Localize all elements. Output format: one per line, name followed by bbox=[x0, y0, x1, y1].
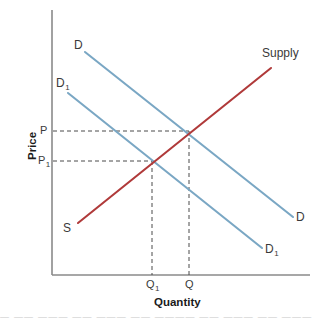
supply-curve bbox=[78, 68, 271, 223]
quantity-tick-q: Q bbox=[185, 279, 194, 290]
demand-shift-end-base: D bbox=[265, 242, 274, 256]
quantity-tick-q1: Q1 bbox=[146, 279, 159, 290]
demand-shift-end-subscript: 1 bbox=[274, 249, 278, 258]
demand-shift-top-subscript: 1 bbox=[65, 83, 69, 92]
x-axis-title: Quantity bbox=[154, 297, 201, 309]
supply-demand-figure: D D1 D D1 S Supply P P1 Q1 Q Price Quant… bbox=[0, 0, 326, 320]
demand-shift-top-base: D bbox=[56, 76, 65, 90]
guide-lines-group bbox=[53, 131, 189, 275]
price-tick-p: P bbox=[40, 125, 47, 136]
demand-shift-curve-end-label: D1 bbox=[265, 243, 278, 255]
quantity-q1-subscript: 1 bbox=[155, 284, 159, 293]
supply-curve-end-label: Supply bbox=[262, 47, 299, 59]
y-axis-title: Price bbox=[27, 132, 39, 160]
demand-shift-curve-top-label: D1 bbox=[56, 77, 69, 89]
supply-curve-start-label: S bbox=[63, 222, 71, 234]
price-tick-p1: P1 bbox=[38, 155, 50, 166]
price-p1-subscript: 1 bbox=[46, 160, 50, 169]
price-p1-base: P bbox=[38, 154, 45, 166]
demand-curve-end-label: D bbox=[296, 211, 305, 223]
quantity-q1-base: Q bbox=[146, 278, 155, 290]
page-edge-artifact: — —— ——— —— ——— —— ———— —— ——— —— ——— bbox=[0, 312, 326, 320]
demand-curve-top-label: D bbox=[74, 39, 83, 51]
